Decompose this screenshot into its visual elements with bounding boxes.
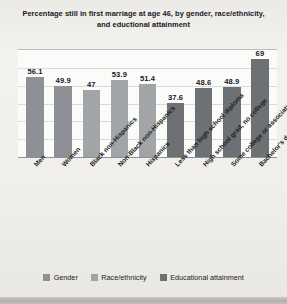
category-axis-labels: MenWomenBlack non-HispanicsNon-Black non… [18,158,277,243]
bar-value-label: 37.6 [162,93,190,102]
bar-value-label: 51.4 [133,74,161,83]
bar-slot: 56.1 [21,50,49,157]
bar-value-label: 47 [77,80,105,89]
legend-label: Race/ethnicity [101,273,146,282]
category-axis: MenWomenBlack non-HispanicsNon-Black non… [6,158,281,243]
bar-value-label: 69 [246,49,274,58]
legend-swatch-icon [160,274,167,281]
category-slot: Men [21,158,49,243]
bar-value-label: 48.9 [218,77,246,86]
legend-item[interactable]: Educational attainment [160,273,244,282]
bar-slot: 47 [77,50,105,157]
category-slot: Non-Black non-Hispanics [105,158,133,243]
bar-value-label: 53.9 [105,70,133,79]
chart-legend: GenderRace/ethnicityEducational attainme… [0,273,287,282]
page-edge-shadow [0,297,287,304]
bar-slot: 49.9 [49,50,77,157]
category-slot: Women [49,158,77,243]
legend-label: Gender [54,273,78,282]
category-slot: Less than high school diploma [162,158,190,243]
category-slot: High school grad, no college [190,158,218,243]
legend-label: Educational attainment [170,273,244,282]
category-slot: Black non-Hispanics [77,158,105,243]
legend-item[interactable]: Race/ethnicity [91,273,147,282]
category-slot: Hispanics [133,158,161,243]
bar-value-label: 56.1 [21,67,49,76]
category-slot: Some college or associate's... [218,158,246,243]
bar-value-label: 48.6 [190,78,218,87]
legend-swatch-icon [43,274,50,281]
chart-page: Percentage still in first marriage at ag… [0,0,287,304]
bar-value-label: 49.9 [49,76,77,85]
bar [26,77,43,157]
category-slot: Bachelor's degree or higher [246,158,274,243]
bar [83,90,100,157]
legend-item[interactable]: Gender [43,273,78,282]
chart-title: Percentage still in first marriage at ag… [16,9,271,30]
bar [54,86,71,157]
legend-swatch-icon [91,274,98,281]
